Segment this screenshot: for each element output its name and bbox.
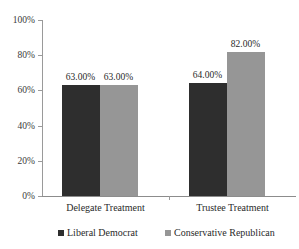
category-label: Trustee Treatment (169, 201, 296, 214)
legend-entry[interactable]: Liberal Democrat (58, 227, 138, 239)
legend-label: Liberal Democrat (67, 227, 138, 239)
chart-legend: Liberal DemocratConservative Republican (0, 227, 299, 243)
y-tick-mark (38, 126, 42, 127)
category-label: Delegate Treatment (42, 201, 169, 214)
y-tick-label: 100% (0, 15, 35, 25)
y-tick-label: 60% (0, 85, 35, 95)
bar-0-1 (189, 83, 227, 196)
y-tick-label: 40% (0, 121, 35, 131)
y-tick-mark (38, 20, 42, 21)
x-tick-mark (169, 196, 170, 200)
y-tick-mark (38, 196, 42, 197)
value-label: 64.00% (184, 70, 232, 81)
bar-0-0 (62, 85, 100, 196)
y-tick-mark (38, 55, 42, 56)
bar-1-0 (100, 85, 138, 196)
legend-entry[interactable]: Conservative Republican (165, 227, 275, 239)
y-tick-label: 20% (0, 156, 35, 166)
legend-label: Conservative Republican (174, 227, 275, 239)
value-label: 63.00% (95, 72, 143, 83)
y-axis-line (42, 20, 43, 197)
y-tick-label: 0% (0, 191, 35, 201)
bar-1-1 (227, 52, 265, 196)
y-tick-label: 80% (0, 50, 35, 60)
y-tick-mark (38, 161, 42, 162)
value-label: 82.00% (222, 39, 270, 50)
bar-chart: 0%20%40%60%80%100% 63.00%63.00%64.00%82.… (0, 0, 299, 249)
legend-swatch-icon (58, 230, 64, 236)
y-tick-mark (38, 90, 42, 91)
legend-swatch-icon (165, 230, 171, 236)
